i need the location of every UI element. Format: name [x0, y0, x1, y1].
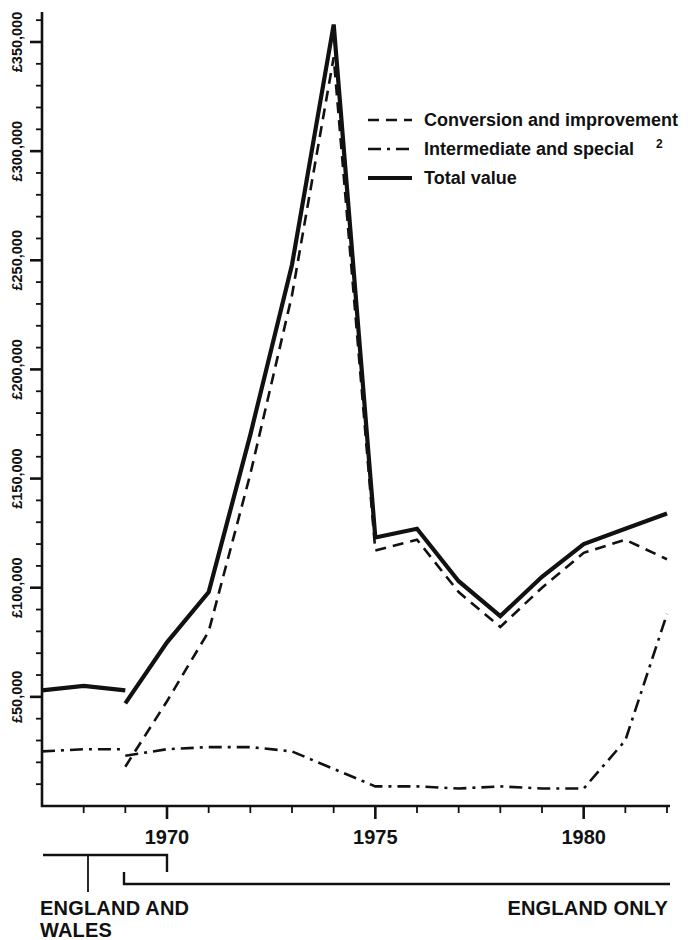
x-axis-labels: 197019751980 — [145, 826, 606, 848]
footer-label-england-only: ENGLAND ONLY — [507, 897, 668, 919]
y-axis-tick-label: £100,000 — [9, 557, 25, 617]
y-axis-tick-label: £150,000 — [9, 448, 25, 508]
x-axis-tick-label: 1970 — [145, 826, 190, 848]
series-line — [42, 686, 125, 690]
footer-label-england-and-wales-line1: ENGLAND AND — [40, 897, 189, 919]
axes — [30, 12, 670, 819]
footer-label-england-and-wales-line2: WALES — [40, 919, 112, 940]
series-line — [42, 749, 125, 751]
series-line — [125, 57, 667, 766]
legend-label: Conversion and improvement — [424, 110, 678, 130]
x-axis-tick-label: 1980 — [561, 826, 606, 848]
legend-label: Total value — [424, 168, 517, 188]
legend: Conversion and improvementIntermediate a… — [368, 110, 678, 188]
legend-label: Intermediate and special — [424, 139, 634, 159]
bracket-england-only — [124, 872, 670, 884]
x-axis-tick-label: 1975 — [353, 826, 398, 848]
y-axis-tick-label: £50,000 — [9, 671, 25, 723]
y-axis-tick-label: £200,000 — [9, 339, 25, 399]
series-line — [125, 614, 667, 789]
line-chart: £50,000£100,000£150,000£200,000£250,000£… — [0, 0, 695, 940]
y-axis-labels: £50,000£100,000£150,000£200,000£250,000£… — [9, 12, 25, 723]
legend-label-superscript: 2 — [656, 137, 663, 151]
y-axis-tick-label: £300,000 — [9, 121, 25, 181]
y-axis-tick-label: £350,000 — [9, 12, 25, 72]
y-axis-tick-label: £250,000 — [9, 230, 25, 290]
bracket-england-and-wales — [43, 855, 167, 872]
footer-brackets: ENGLAND ANDWALESENGLAND ONLY — [40, 855, 670, 940]
chart-figure: £50,000£100,000£150,000£200,000£250,000£… — [0, 0, 695, 940]
